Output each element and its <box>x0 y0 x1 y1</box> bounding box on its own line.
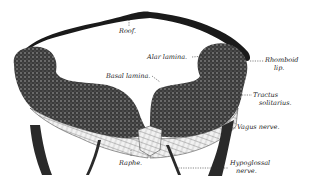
label-rhomboid-lip-line2: lip. <box>274 65 284 72</box>
label-raphe: Raphe. <box>119 160 142 167</box>
basal-leader <box>152 76 160 82</box>
left-vagus-root <box>30 125 52 175</box>
label-alar-lamina: Alar lamina. <box>147 54 187 61</box>
label-roof: Roof. <box>119 28 136 35</box>
left-lateral-mass <box>14 47 150 139</box>
label-tractus-line2: solitarius. <box>259 100 292 107</box>
label-vagus-nerve: Vagus nerve. <box>237 124 279 131</box>
label-hypoglossal-line1: Hypoglossal <box>230 160 270 167</box>
label-rhomboid-lip-line1: Rhomboid <box>265 57 298 64</box>
label-basal-lamina: Basal lamina. <box>106 73 150 80</box>
label-hypoglossal-line2: nerve. <box>236 168 257 175</box>
label-tractus-line1: Tractus <box>253 92 278 99</box>
left-hypoglossal-root <box>86 140 101 175</box>
